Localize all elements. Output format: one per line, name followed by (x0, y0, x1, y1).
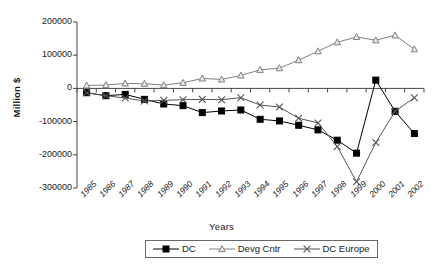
data-point-marker (219, 108, 225, 114)
data-point-marker (315, 48, 321, 54)
legend-label: Devg Cntr (238, 244, 281, 254)
legend-marker-triangle-icon (209, 244, 235, 254)
data-point-marker (372, 139, 379, 146)
data-point-marker (199, 75, 205, 81)
legend-label: DC (182, 244, 196, 254)
data-point-marker (411, 94, 418, 101)
data-point-marker (295, 57, 301, 63)
chart-series-dc-europe (83, 89, 418, 185)
data-point-marker (276, 118, 282, 124)
data-point-marker (180, 103, 186, 109)
legend-marker-cross-icon (294, 244, 320, 254)
data-point-marker (334, 143, 341, 150)
data-point-marker (315, 127, 321, 133)
data-point-marker (238, 107, 244, 113)
data-point-marker (163, 246, 169, 252)
chart-series-devg-cntr (83, 32, 417, 88)
x-axis-title: Years (0, 221, 443, 232)
legend-marker-filled-square-icon (153, 244, 179, 254)
data-point-marker (199, 110, 205, 116)
legend-item-dc-europe[interactable]: DC Europe (294, 244, 370, 254)
legend-item-dc[interactable]: DC (153, 244, 196, 254)
data-point-marker (411, 46, 417, 52)
data-point-marker (354, 150, 360, 156)
data-point-marker (295, 115, 302, 122)
data-point-marker (334, 137, 340, 143)
data-point-marker (411, 131, 417, 137)
chart-container: Million $ 2000001000000-100000-200000-30… (0, 0, 443, 274)
data-point-marker (296, 122, 302, 128)
data-point-marker (353, 34, 359, 40)
legend-item-devg-cntr[interactable]: Devg Cntr (209, 244, 281, 254)
chart-plot-area (0, 0, 443, 274)
data-point-marker (315, 120, 322, 127)
data-point-marker (257, 116, 263, 122)
data-point-marker (392, 32, 398, 38)
chart-legend: DCDevg CntrDC Europe (145, 240, 378, 258)
data-point-marker (373, 77, 379, 83)
legend-label: DC Europe (323, 244, 370, 254)
